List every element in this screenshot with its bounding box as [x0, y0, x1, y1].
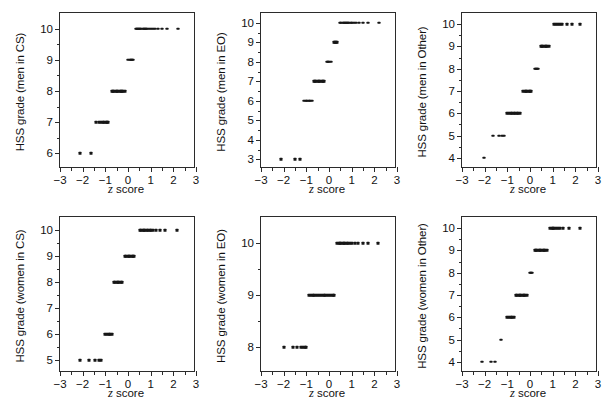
data-point	[123, 90, 126, 93]
x-tick	[575, 167, 576, 172]
data-point	[361, 242, 364, 245]
plot-area: 45678910−3−2−10123	[461, 12, 597, 168]
x-tick	[151, 371, 152, 376]
data-point	[298, 158, 301, 161]
x-tick-minor	[496, 167, 497, 171]
data-point	[567, 227, 570, 230]
y-tick-label: 10	[442, 222, 455, 234]
x-tick	[507, 371, 508, 376]
data-point	[366, 21, 369, 24]
y-tick-label: 4	[248, 134, 254, 146]
data-point	[525, 294, 528, 297]
x-tick-minor	[564, 167, 565, 171]
data-point	[89, 152, 92, 155]
data-point	[492, 134, 495, 137]
panel-5: HSS grade (women in EO)8910−3−2−10123z s…	[201, 204, 402, 408]
y-tick-label: 5	[449, 334, 455, 346]
y-axis-title: HSS grade (women in CS)	[14, 212, 30, 380]
data-point	[282, 346, 285, 349]
data-point	[578, 227, 581, 230]
data-point	[107, 121, 110, 124]
data-point	[376, 242, 379, 245]
x-tick	[553, 167, 554, 172]
y-tick-label: 5	[47, 354, 53, 366]
y-tick-label: 9	[248, 36, 254, 48]
plot-area: 678910−3−2−10123	[59, 12, 195, 168]
x-tick	[196, 167, 197, 172]
x-tick	[60, 371, 61, 376]
x-axis-title-rest: score	[113, 183, 144, 195]
data-point	[157, 27, 160, 30]
x-tick	[352, 167, 353, 172]
x-tick	[530, 371, 531, 376]
x-tick	[151, 167, 152, 172]
y-axis-title: HSS grade (men in CS)	[14, 8, 30, 176]
y-tick-label: 8	[248, 341, 254, 353]
data-point	[482, 157, 485, 160]
plot-area: 8910−3−2−10123	[260, 216, 396, 372]
panel-2: HSS grade (men in EO)345678910−3−2−10123…	[201, 0, 402, 204]
x-tick-minor	[162, 371, 163, 375]
data-point	[78, 152, 81, 155]
data-point	[176, 27, 179, 30]
data-point	[133, 255, 136, 258]
x-tick	[105, 167, 106, 172]
x-tick	[462, 167, 463, 172]
x-tick	[397, 371, 398, 376]
y-tick-label: 5	[248, 114, 254, 126]
y-tick-label: 7	[449, 289, 455, 301]
panel-1: HSS grade (men in CS)678910−3−2−10123z s…	[0, 0, 201, 204]
plot-area: 45678910−3−2−10123	[461, 216, 597, 372]
x-tick-minor	[340, 167, 341, 171]
x-tick	[462, 371, 463, 376]
x-tick-minor	[185, 371, 186, 375]
data-point	[377, 21, 380, 24]
data-point	[570, 23, 573, 26]
x-tick	[553, 371, 554, 376]
data-point	[366, 242, 369, 245]
x-tick-minor	[473, 167, 474, 171]
x-tick-minor	[363, 371, 364, 375]
data-point	[545, 249, 548, 252]
data-point	[175, 229, 178, 232]
x-tick	[329, 371, 330, 376]
data-point	[518, 112, 521, 115]
y-axis-title: HSS grade (men in Other)	[416, 8, 432, 176]
y-tick-label: 9	[449, 244, 455, 256]
y-tick-label: 4	[449, 356, 455, 368]
data-point	[578, 23, 581, 26]
y-tick-label: 10	[442, 18, 455, 30]
x-tick	[196, 371, 197, 376]
data-point	[530, 90, 533, 93]
x-tick-minor	[272, 167, 273, 171]
x-tick-minor	[318, 371, 319, 375]
x-tick	[598, 371, 599, 376]
y-tick-label: 10	[241, 237, 254, 249]
plot-area: 345678910−3−2−10123	[260, 12, 396, 168]
y-tick-label: 7	[449, 85, 455, 97]
x-tick	[261, 167, 262, 172]
data-point	[110, 333, 113, 336]
data-point	[159, 229, 162, 232]
y-tick-label: 8	[47, 276, 53, 288]
x-tick-minor	[162, 167, 163, 171]
x-tick-minor	[117, 167, 118, 171]
data-point	[357, 242, 360, 245]
x-axis-title: z score	[259, 182, 395, 197]
x-tick	[83, 371, 84, 376]
x-tick	[530, 167, 531, 172]
x-tick-minor	[564, 371, 565, 375]
y-tick-label: 8	[449, 267, 455, 279]
x-tick	[173, 167, 174, 172]
y-tick-label: 9	[47, 250, 53, 262]
y-tick-label: 10	[40, 23, 53, 35]
panel-6: HSS grade (women in Other)45678910−3−2−1…	[402, 204, 603, 408]
data-point	[323, 80, 326, 83]
data-point	[536, 67, 539, 70]
x-tick-minor	[473, 371, 474, 375]
data-point	[165, 27, 168, 30]
data-point	[279, 158, 282, 161]
y-tick-label: 6	[449, 107, 455, 119]
y-tick-label: 9	[248, 289, 254, 301]
panel-4: HSS grade (women in CS)5678910−3−2−10123…	[0, 204, 201, 408]
